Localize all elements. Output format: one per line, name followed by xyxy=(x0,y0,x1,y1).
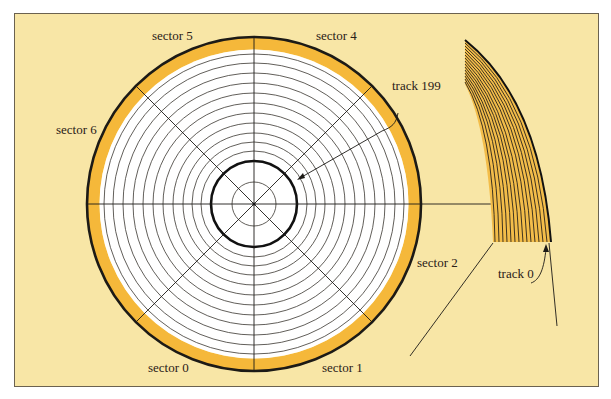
disk-diagram: sector 5 sector 4 track 199 sector 6 sec… xyxy=(0,0,611,399)
label-sector-2: sector 2 xyxy=(417,255,458,270)
spindle-center xyxy=(252,202,255,205)
label-sector-4: sector 4 xyxy=(316,28,357,43)
label-track-199: track 199 xyxy=(392,78,441,93)
label-track-0: track 0 xyxy=(498,266,534,281)
label-sector-5: sector 5 xyxy=(152,28,193,43)
label-sector-0: sector 0 xyxy=(148,360,189,375)
label-sector-6: sector 6 xyxy=(56,122,97,137)
label-sector-1: sector 1 xyxy=(322,360,363,375)
